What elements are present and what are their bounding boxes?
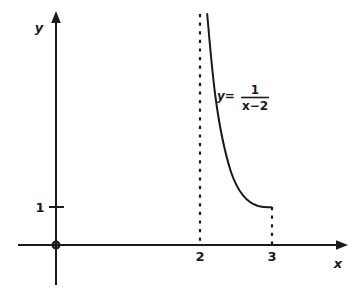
equation-lhs: y= bbox=[217, 89, 235, 103]
x-axis-group bbox=[18, 240, 348, 250]
equation-label-group: y= 1 x−2 bbox=[217, 83, 269, 113]
graph-plot: 1 2 3 y= 1 x−2 y x bbox=[0, 0, 360, 292]
y-axis-label: y bbox=[35, 20, 44, 35]
y-tick-1-group: 1 bbox=[35, 200, 64, 215]
equation-denominator: x−2 bbox=[242, 99, 268, 113]
asymptote-x2-group: 2 bbox=[195, 14, 204, 264]
y-tick-label-1: 1 bbox=[35, 200, 44, 215]
x-axis-label: x bbox=[333, 256, 343, 271]
figure-canvas: 1 2 3 y= 1 x−2 y x bbox=[0, 0, 360, 292]
x-tick-label-3: 3 bbox=[267, 249, 276, 264]
equation-numerator: 1 bbox=[251, 83, 259, 97]
y-axis-arrow-icon bbox=[51, 11, 61, 23]
dropline-x3-group: 3 bbox=[267, 207, 276, 264]
x-tick-label-2: 2 bbox=[195, 249, 204, 264]
x-axis-arrow-icon bbox=[336, 240, 348, 250]
